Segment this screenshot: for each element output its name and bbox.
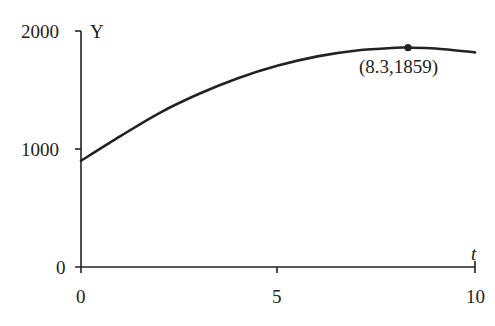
max-point-marker: [404, 44, 411, 51]
max-point-label: (8.3,1859): [359, 57, 438, 76]
y-tick-label-1000: 1000: [21, 140, 59, 159]
x-tick-label-5: 5: [272, 287, 282, 306]
x-tick-label-0: 0: [76, 287, 86, 306]
y-axis-label: Y: [90, 22, 104, 41]
chart-canvas: [0, 0, 495, 326]
y-tick-label-2000: 2000: [21, 22, 59, 41]
y-tick-label-0: 0: [56, 258, 66, 277]
x-tick-label-10: 10: [466, 287, 485, 306]
x-axis-label: t: [471, 244, 476, 263]
